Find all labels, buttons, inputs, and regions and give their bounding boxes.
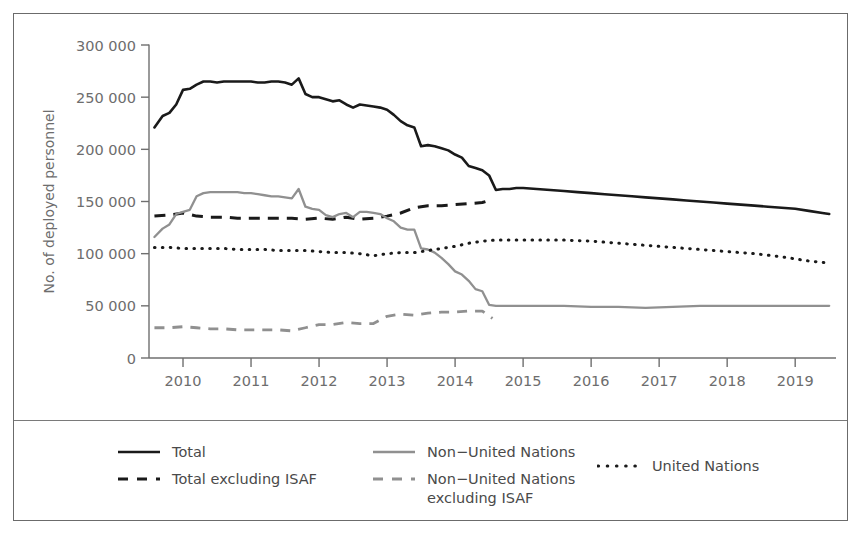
legend-label: Non−United Nations <box>427 443 575 462</box>
legend-label: Total <box>172 443 206 462</box>
y-tick-label-300000: 300 000 <box>76 38 136 54</box>
legend-item-total-excluding-isaf[interactable]: Total excluding ISAF <box>117 470 317 489</box>
legend-label: Non−United Nations excluding ISAF <box>427 470 575 508</box>
legend-swatch-dotted-icon <box>597 458 641 474</box>
y-tick-label-150000: 150 000 <box>76 194 136 210</box>
legend-item-non-united-nations[interactable]: Non−United Nations <box>372 443 575 462</box>
series-united-nations <box>154 240 829 263</box>
x-tick-label-2015: 2015 <box>505 373 542 389</box>
series-total-excluding-isaf <box>154 199 492 219</box>
x-tick-label-2017: 2017 <box>641 373 678 389</box>
figure-frame: 050 000100 000150 000200 000250 000300 0… <box>13 13 848 521</box>
legend-grid: TotalTotal excluding ISAFNon−United Nati… <box>14 421 847 520</box>
x-tick-label-2012: 2012 <box>301 373 338 389</box>
legend-item-total[interactable]: Total <box>117 443 206 462</box>
x-tick-label-2011: 2011 <box>233 373 270 389</box>
legend-swatch-dashed-icon <box>372 471 416 487</box>
y-tick-label-200000: 200 000 <box>76 142 136 158</box>
x-tick-label-2013: 2013 <box>369 373 406 389</box>
x-tick-label-2016: 2016 <box>573 373 610 389</box>
legend-item-united-nations[interactable]: United Nations <box>597 457 759 476</box>
x-tick-label-2014: 2014 <box>437 373 474 389</box>
x-tick-label-2010: 2010 <box>165 373 202 389</box>
legend-swatch-solid-icon <box>117 444 161 460</box>
legend-swatch-solid-icon <box>372 444 416 460</box>
line-chart: 050 000100 000150 000200 000250 000300 0… <box>14 14 849 420</box>
legend-swatch-dashed-icon <box>117 471 161 487</box>
y-tick-label-50000: 50 000 <box>85 298 136 314</box>
chart-region: 050 000100 000150 000200 000250 000300 0… <box>14 14 847 420</box>
legend-label: United Nations <box>652 457 759 476</box>
y-axis-title: No. of deployed personnel <box>41 109 57 293</box>
series-non-united-nations <box>154 189 829 308</box>
legend-label: Total excluding ISAF <box>172 470 317 489</box>
y-tick-label-250000: 250 000 <box>76 90 136 106</box>
legend-region: TotalTotal excluding ISAFNon−United Nati… <box>14 421 847 520</box>
x-tick-label-2018: 2018 <box>709 373 746 389</box>
y-tick-label-100000: 100 000 <box>76 246 136 262</box>
legend-item-non-united-nations-excluding-isaf[interactable]: Non−United Nations excluding ISAF <box>372 470 575 508</box>
x-tick-label-2019: 2019 <box>777 373 814 389</box>
series-non-united-nations-excluding-isaf <box>154 311 492 331</box>
y-tick-label-0: 0 <box>127 351 136 367</box>
